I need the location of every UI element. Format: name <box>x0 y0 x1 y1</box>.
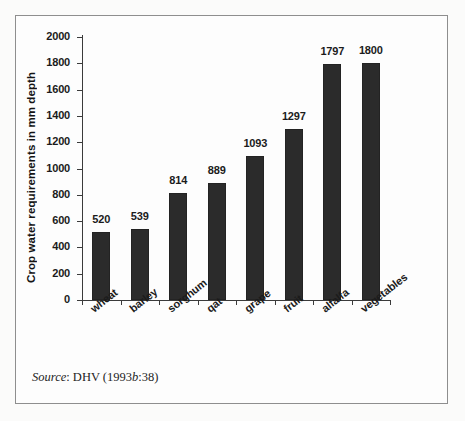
bar-value-label: 814 <box>169 174 187 186</box>
y-axis-tick: 200 <box>77 274 82 275</box>
x-axis-tick <box>352 300 353 305</box>
bar-value-label: 889 <box>208 164 226 176</box>
y-axis-tick-label: 200 <box>52 267 70 279</box>
y-axis-tick: 800 <box>77 195 82 196</box>
bar[interactable] <box>362 63 380 300</box>
bar[interactable] <box>208 183 226 300</box>
source-label: Source <box>32 370 66 384</box>
y-axis-tick-label: 0 <box>64 293 70 305</box>
x-axis-tick <box>82 300 83 305</box>
bar[interactable] <box>285 129 303 300</box>
plot-area: 0200400600800100012001400160018002000520… <box>82 37 390 300</box>
source-text: : DHV (1993 <box>66 370 132 384</box>
source-page: :38) <box>138 370 158 384</box>
y-axis-tick-label: 1200 <box>46 135 70 147</box>
x-axis-tick <box>198 300 199 305</box>
bar[interactable] <box>169 193 187 300</box>
bar-value-label: 1093 <box>243 137 267 149</box>
y-axis-tick: 600 <box>77 221 82 222</box>
y-axis-tick-label: 1400 <box>46 109 70 121</box>
y-axis-tick: 400 <box>77 247 82 248</box>
y-axis-tick-label: 600 <box>52 214 70 226</box>
x-axis-tick <box>390 300 391 305</box>
y-axis-tick-label: 2000 <box>46 30 70 42</box>
y-axis-tick: 1200 <box>77 142 82 143</box>
x-axis-tick <box>159 300 160 305</box>
y-axis-tick: 1400 <box>77 116 82 117</box>
x-axis-tick <box>275 300 276 305</box>
bar-value-label: 1800 <box>359 44 383 56</box>
y-axis-tick: 1000 <box>77 169 82 170</box>
figure-page: Crop water requirements in mm depth 0200… <box>0 0 465 421</box>
x-axis-tick <box>313 300 314 305</box>
bar-value-label: 1297 <box>282 110 306 122</box>
y-axis-tick-label: 1800 <box>46 56 70 68</box>
bar-value-label: 520 <box>92 213 110 225</box>
y-axis-tick-label: 800 <box>52 188 70 200</box>
y-axis-tick: 2000 <box>77 37 82 38</box>
bar[interactable] <box>246 156 264 300</box>
bar-value-label: 1797 <box>320 45 344 57</box>
y-axis-tick-label: 1000 <box>46 162 70 174</box>
x-axis-tick <box>121 300 122 305</box>
y-axis-title: Crop water requirements in mm depth <box>25 70 43 285</box>
y-axis-tick-label: 1600 <box>46 83 70 95</box>
source-caption: Source: DHV (1993b:38) <box>32 370 158 385</box>
x-axis-tick <box>236 300 237 305</box>
y-axis-tick-label: 400 <box>52 240 70 252</box>
y-axis-tick: 1800 <box>77 63 82 64</box>
bar-value-label: 539 <box>131 210 149 222</box>
y-axis-tick: 1600 <box>77 90 82 91</box>
bar[interactable] <box>323 64 341 300</box>
